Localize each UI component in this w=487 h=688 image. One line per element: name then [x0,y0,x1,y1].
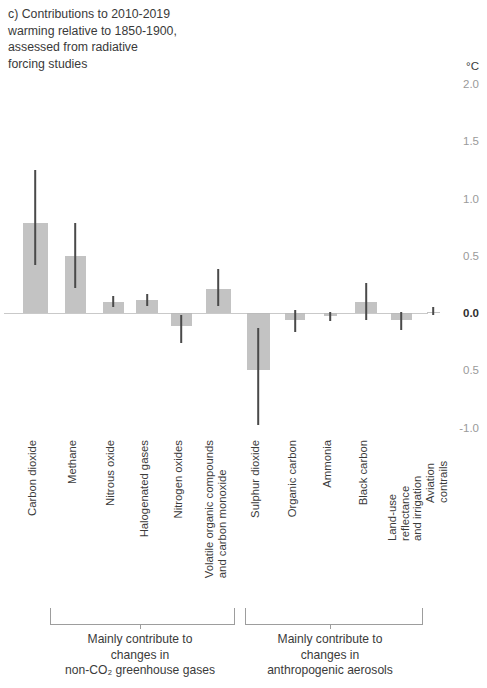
category-label-halogenated-gases: Halogenated gases [138,440,151,537]
category-label-ammonia: Ammonia [321,440,334,488]
bracket-aerosols [245,608,423,625]
group-brackets: Mainly contribute tochanges innon-CO₂ gr… [0,604,487,688]
category-label-volatile-organic-compounds-and-carbon-monoxide: Volatile organic compounds and carbon mo… [203,440,228,578]
category-label-land-use-reflectance-and-irrigation: Land-use reflectance and irrigation [386,440,424,541]
error-bar-organic-carbon [294,310,296,333]
category-label-nitrous-oxide: Nitrous oxide [104,440,117,506]
category-label-aviation-contrails: Aviation contrails [424,440,449,503]
y-tick-2: 2.0 [439,78,479,90]
error-bar-methane [74,223,76,288]
bracket-non-co2-ghg-caption: Mainly contribute tochanges innon-CO₂ gr… [35,632,245,679]
bracket-non-co2-ghg [50,608,235,625]
error-bar-land-use-reflectance-and-irrigation [400,312,402,330]
category-label-methane: Methane [66,440,79,484]
bracket-aerosols-caption: Mainly contribute tochanges inanthropoge… [225,632,435,679]
error-bar-nitrogen-oxides [180,315,182,342]
chart-plot-area: °C 2.01.51.00.50.00.5-1.0 [0,60,487,440]
category-axis-labels: Carbon dioxideMethaneNitrous oxideHaloge… [0,440,487,610]
category-label-nitrogen-oxides: Nitrogen oxides [172,440,185,519]
error-bar-black-carbon [365,283,367,320]
error-bar-sulphur-dioxide [257,328,259,425]
bracket-aerosols-tick [330,624,331,629]
error-bar-ammonia [329,312,331,321]
category-label-black-carbon: Black carbon [357,440,370,505]
error-bar-nitrous-oxide [112,296,114,307]
category-label-organic-carbon: Organic carbon [286,440,299,517]
y-tick-0neg5: 0.5 [439,250,479,262]
error-bar-aviation-contrails [432,307,434,315]
error-bar-volatile-organic-compounds-and-carbon-monoxide [217,269,219,306]
bracket-non-co2-ghg-tick [140,624,141,629]
y-tick-0: 0.0 [439,307,479,319]
error-bar-halogenated-gases [146,294,148,307]
y-tick-neg0-5: 0.5 [439,364,479,376]
y-tick-neg1: -1.0 [439,422,479,434]
y-tick-1neg5: 1.5 [439,135,479,147]
error-bar-carbon-dioxide [34,170,36,265]
y-axis-unit-label: °C [466,60,479,72]
category-label-sulphur-dioxide: Sulphur dioxide [249,440,262,518]
y-tick-1: 1.0 [439,193,479,205]
category-label-carbon-dioxide: Carbon dioxide [26,440,39,516]
